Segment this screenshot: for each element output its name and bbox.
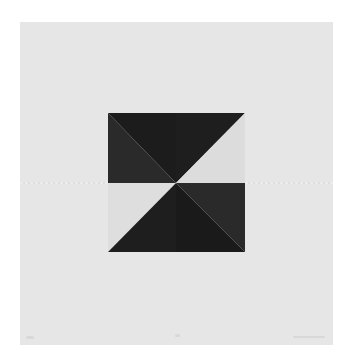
pencil-center-mark	[175, 334, 180, 337]
pencil-signature-mark	[293, 336, 325, 338]
artwork-triangles-icon	[108, 113, 245, 252]
geometric-artwork	[108, 113, 245, 252]
pencil-edition-mark	[26, 336, 34, 339]
